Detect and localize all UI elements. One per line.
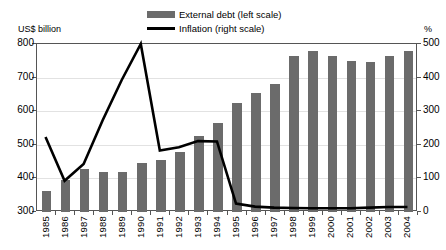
right-axis-tick-label: 300 bbox=[423, 105, 440, 115]
bar-2001 bbox=[347, 61, 357, 212]
chart-legend: External debt (left scale) Inflation (ri… bbox=[147, 9, 281, 34]
bar-1995 bbox=[232, 103, 242, 212]
x-axis-label-1997: 1997 bbox=[269, 216, 279, 238]
legend-item-inflation: Inflation (right scale) bbox=[147, 23, 281, 34]
bar-1992 bbox=[175, 152, 185, 212]
bar-1990 bbox=[137, 163, 147, 212]
chart-container: B. External debt and inflation US$ billi… bbox=[0, 0, 446, 250]
x-axis-label-1994: 1994 bbox=[212, 216, 222, 238]
x-axis-label-2002: 2002 bbox=[364, 216, 374, 238]
x-axis-label-1988: 1988 bbox=[98, 216, 108, 238]
x-axis-label-1996: 1996 bbox=[250, 216, 260, 238]
left-axis-tick-label: 400 bbox=[17, 172, 34, 182]
left-axis-tick-label: 800 bbox=[17, 38, 34, 48]
x-axis-tick bbox=[188, 211, 189, 215]
legend-bar-swatch-icon bbox=[147, 11, 175, 18]
x-axis-label-2003: 2003 bbox=[383, 216, 393, 238]
legend-line-swatch-icon bbox=[147, 27, 175, 30]
x-axis-label-1987: 1987 bbox=[79, 216, 89, 238]
x-axis-tick bbox=[227, 211, 228, 215]
right-axis-tick bbox=[417, 177, 421, 178]
x-axis-tick bbox=[207, 211, 208, 215]
bar-1986 bbox=[61, 180, 71, 212]
bar-1985 bbox=[42, 191, 52, 212]
x-axis-label-1995: 1995 bbox=[231, 216, 241, 238]
bar-1999 bbox=[308, 51, 318, 212]
x-axis-tick bbox=[150, 211, 151, 215]
x-axis-tick bbox=[417, 211, 418, 215]
left-axis-unit-label: US$ billion bbox=[18, 24, 61, 34]
bar-1993 bbox=[194, 136, 204, 212]
x-axis-tick bbox=[131, 211, 132, 215]
x-axis-tick bbox=[284, 211, 285, 215]
bar-1991 bbox=[156, 160, 166, 212]
left-axis-tick-label: 500 bbox=[17, 139, 34, 149]
x-axis-label-2000: 2000 bbox=[326, 216, 336, 238]
legend-label-external-debt: External debt (left scale) bbox=[179, 9, 281, 20]
bar-1997 bbox=[270, 84, 280, 212]
x-axis-label-1989: 1989 bbox=[117, 216, 127, 238]
gridline bbox=[37, 145, 416, 146]
x-axis-label-1992: 1992 bbox=[174, 216, 184, 238]
left-axis-tick-label: 300 bbox=[17, 206, 34, 216]
plot-area bbox=[36, 43, 417, 211]
right-axis-tick-label: 500 bbox=[423, 38, 440, 48]
x-axis-tick bbox=[360, 211, 361, 215]
gridline bbox=[37, 78, 416, 79]
x-axis-label-1985: 1985 bbox=[41, 216, 51, 238]
right-axis-tick-label: 100 bbox=[423, 172, 440, 182]
x-axis-tick bbox=[93, 211, 94, 215]
x-axis-tick bbox=[74, 211, 75, 215]
bar-2000 bbox=[328, 56, 338, 212]
x-axis-tick bbox=[398, 211, 399, 215]
x-axis-tick bbox=[265, 211, 266, 215]
bar-2002 bbox=[366, 62, 376, 212]
x-axis-tick bbox=[55, 211, 56, 215]
right-axis-tick-label: 400 bbox=[423, 72, 440, 82]
gridline bbox=[37, 178, 416, 179]
x-axis-label-1986: 1986 bbox=[60, 216, 70, 238]
x-axis-tick bbox=[379, 211, 380, 215]
right-axis-tick bbox=[417, 77, 421, 78]
x-axis-tick bbox=[169, 211, 170, 215]
x-axis-label-1999: 1999 bbox=[307, 216, 317, 238]
x-axis-tick bbox=[341, 211, 342, 215]
x-axis-label-1998: 1998 bbox=[288, 216, 298, 238]
x-axis-label-1993: 1993 bbox=[193, 216, 203, 238]
legend-item-external-debt: External debt (left scale) bbox=[147, 9, 281, 20]
left-axis-tick-label: 700 bbox=[17, 72, 34, 82]
bar-1988 bbox=[99, 172, 109, 212]
x-axis-label-2001: 2001 bbox=[345, 216, 355, 238]
legend-label-inflation: Inflation (right scale) bbox=[179, 23, 265, 34]
left-axis-tick-label: 600 bbox=[17, 105, 34, 115]
page-title: B. External debt and inflation bbox=[4, 0, 125, 2]
x-axis-tick bbox=[322, 211, 323, 215]
x-axis-label-2004: 2004 bbox=[402, 216, 412, 238]
right-axis-tick bbox=[417, 144, 421, 145]
bar-2003 bbox=[385, 56, 395, 212]
x-axis-tick bbox=[303, 211, 304, 215]
x-axis-tick bbox=[112, 211, 113, 215]
bar-1987 bbox=[80, 169, 90, 212]
bar-1989 bbox=[118, 172, 128, 212]
x-axis-label-1991: 1991 bbox=[155, 216, 165, 238]
right-axis-tick bbox=[417, 110, 421, 111]
right-axis-tick-label: 200 bbox=[423, 139, 440, 149]
gridline bbox=[37, 111, 416, 112]
bar-1998 bbox=[289, 56, 299, 212]
x-axis-tick bbox=[246, 211, 247, 215]
right-axis-tick-label: 0 bbox=[423, 206, 429, 216]
right-axis-tick bbox=[417, 43, 421, 44]
x-axis-label-1990: 1990 bbox=[136, 216, 146, 238]
bar-2004 bbox=[404, 51, 414, 212]
bar-1994 bbox=[213, 123, 223, 212]
bar-1996 bbox=[251, 93, 261, 212]
right-axis-unit-label: % bbox=[424, 24, 432, 34]
